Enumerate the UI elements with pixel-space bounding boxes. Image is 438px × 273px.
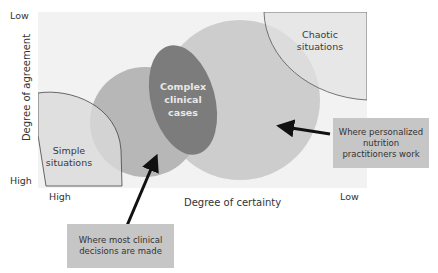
complex-clinical-cases-label: Complex clinical cases [153,80,213,119]
simple-situations-label: Simple situations [44,145,94,169]
chaotic-situations-label: Chaotic situations [290,29,350,53]
y-axis-low-label: Low [10,10,29,21]
callout-clinical-decisions: Where most clinical decisions are made [67,224,174,268]
y-axis-high-label: High [10,175,32,186]
x-axis-title: Degree of certainty [184,197,281,208]
y-axis-title: Degree of agreement [21,33,32,143]
x-axis-high-label: High [49,191,71,202]
callout-personalized-practitioners: Where personalized nutrition practitione… [333,118,429,168]
x-axis-low-label: Low [340,191,359,202]
